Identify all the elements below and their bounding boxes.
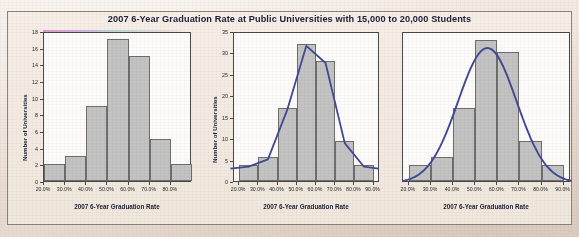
figure-title: 2007 6-Year Graduation Rate at Public Un… — [8, 14, 571, 24]
x-axis-tick — [474, 182, 475, 185]
y-axis-tick — [40, 165, 43, 166]
y-axis-tick-label: 0 — [213, 179, 228, 185]
plot-area-2 — [233, 32, 379, 182]
histogram-panel-1: 024681012141618 20.0%30.0%40.0%50.0%60.0… — [12, 26, 198, 222]
y-axis-tick-label: 16 — [23, 46, 38, 52]
plot-area-1 — [43, 32, 191, 182]
x-axis-tick-label: 30.0% — [53, 186, 75, 192]
x-axis-tick — [296, 182, 297, 185]
y-axis-tick-label: 2 — [23, 162, 38, 168]
y-axis-tick-label: 14 — [23, 62, 38, 68]
x-axis-tick-label: 20.0% — [397, 186, 419, 192]
x-axis-tick-label: 40.0% — [74, 186, 96, 192]
y-axis-tick — [230, 139, 233, 140]
histogram-bar — [171, 164, 192, 181]
x-axis-tick — [334, 182, 335, 185]
histogram-bar — [150, 139, 171, 181]
y-axis-title-1: Number of Universities — [21, 94, 28, 161]
x-axis-tick — [257, 182, 258, 185]
x-axis-tick — [315, 182, 316, 185]
x-axis-tick — [106, 182, 107, 185]
overlay-curve-3 — [403, 33, 571, 183]
histogram-bar — [86, 106, 107, 181]
histogram-bar — [129, 56, 150, 181]
x-axis-tick — [85, 182, 86, 185]
plot-area-3 — [402, 32, 570, 182]
figure-container: 2007 6-Year Graduation Rate at Public Un… — [7, 11, 572, 225]
x-axis-tick-label: 30.0% — [419, 186, 441, 192]
histogram-bar — [107, 39, 128, 181]
x-axis-tick — [238, 182, 239, 185]
x-axis-tick-label: 60.0% — [485, 186, 507, 192]
y-axis-tick-label: 25 — [213, 72, 228, 78]
x-axis-tick — [541, 182, 542, 185]
x-axis-tick-label: 80.0% — [530, 186, 552, 192]
x-axis-tick — [149, 182, 150, 185]
y-axis-tick — [40, 115, 43, 116]
y-axis-tick-label: 12 — [23, 79, 38, 85]
x-axis-tick-label: 70.0% — [138, 186, 160, 192]
x-axis-tick — [353, 182, 354, 185]
x-axis-tick-label: 50.0% — [463, 186, 485, 192]
y-axis-tick — [40, 32, 43, 33]
x-axis-tick — [64, 182, 65, 185]
x-axis-tick — [408, 182, 409, 185]
y-axis-tick — [230, 75, 233, 76]
y-axis-tick — [40, 49, 43, 50]
y-axis-title-2: Number of Universities — [211, 96, 218, 163]
histogram-panel-3: 20.0%30.0%40.0%50.0%60.0%70.0%80.0%90.0%… — [388, 26, 579, 222]
y-axis-tick — [40, 99, 43, 100]
x-axis-tick — [128, 182, 129, 185]
histogram-bar — [44, 164, 65, 181]
x-axis-tick-label: 90.0% — [552, 186, 574, 192]
x-axis-tick — [373, 182, 374, 185]
y-axis-tick — [40, 82, 43, 83]
x-axis-tick — [277, 182, 278, 185]
x-axis-tick — [496, 182, 497, 185]
x-axis-tick — [563, 182, 564, 185]
x-axis-tick — [518, 182, 519, 185]
histogram-panel-2: 05101520253035 20.0%30.0%40.0%50.0%60.0%… — [200, 26, 386, 222]
y-axis-tick — [230, 118, 233, 119]
x-axis-tick-label: 20.0% — [32, 186, 54, 192]
y-axis-tick — [230, 161, 233, 162]
histogram-bar — [65, 156, 86, 181]
bar-series-1 — [44, 33, 190, 181]
y-axis-tick-label: 0 — [23, 179, 38, 185]
x-axis-tick-label: 70.0% — [507, 186, 529, 192]
overlay-curve-2 — [234, 33, 380, 183]
y-axis-tick-label: 35 — [213, 29, 228, 35]
x-axis-title-1: 2007 6-Year Graduation Rate — [43, 203, 191, 210]
y-axis-tick — [40, 65, 43, 66]
x-axis-tick-label: 40.0% — [441, 186, 463, 192]
y-axis-tick-label: 30 — [213, 50, 228, 56]
x-axis-title-2: 2007 6-Year Graduation Rate — [233, 203, 379, 210]
x-axis-tick-label: 90.0% — [362, 186, 384, 192]
x-axis-tick — [170, 182, 171, 185]
x-axis-tick — [43, 182, 44, 185]
y-axis-tick — [40, 132, 43, 133]
x-axis-tick-label: 50.0% — [95, 186, 117, 192]
y-axis-tick-label: 18 — [23, 29, 38, 35]
y-axis-tick — [230, 182, 233, 183]
x-axis-tick-label: 60.0% — [117, 186, 139, 192]
y-axis-tick — [40, 149, 43, 150]
y-axis-tick — [230, 32, 233, 33]
y-axis-tick — [230, 53, 233, 54]
x-axis-title-3: 2007 6-Year Graduation Rate — [402, 203, 570, 210]
y-axis-tick — [230, 96, 233, 97]
x-axis-tick — [452, 182, 453, 185]
x-axis-tick-label: 80.0% — [159, 186, 181, 192]
x-axis-tick — [430, 182, 431, 185]
